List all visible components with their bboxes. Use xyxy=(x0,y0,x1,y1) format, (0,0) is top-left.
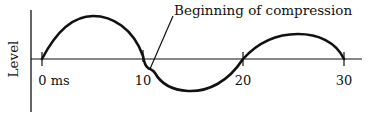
y-axis-label: Level xyxy=(7,41,21,78)
tick-label-0: 0 ms xyxy=(38,74,69,87)
tick-label-10: 10 xyxy=(135,74,152,87)
tick-label-30: 30 xyxy=(336,74,353,87)
waveform-curve xyxy=(42,16,344,91)
annotation-label: Beginning of compression xyxy=(174,4,352,18)
waveform-diagram: Level Beginning of compression 0 ms 10 2… xyxy=(0,0,377,116)
tick-marks xyxy=(42,50,344,66)
tick-label-20: 20 xyxy=(235,74,252,87)
annotation-leader-line xyxy=(150,16,173,69)
